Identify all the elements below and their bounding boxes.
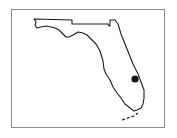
location-marker [131, 75, 138, 82]
florida-map [0, 0, 177, 138]
florida-keys [122, 113, 138, 120]
florida-outline [34, 19, 144, 111]
